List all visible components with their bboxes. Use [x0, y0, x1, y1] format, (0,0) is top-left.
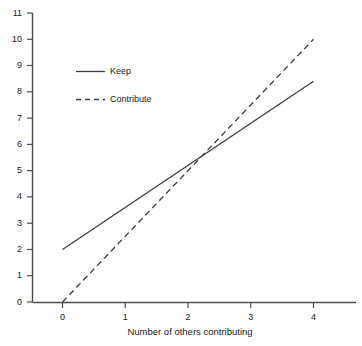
- x-axis-title: Number of others contributing: [105, 326, 275, 337]
- y-tick-label: 0: [0, 298, 22, 307]
- y-tick-label: 1: [0, 271, 22, 280]
- x-tick-label: 1: [115, 313, 135, 322]
- x-tick-label: 4: [304, 313, 324, 322]
- y-tick-label: 8: [0, 87, 22, 96]
- y-tick-label: 6: [0, 140, 22, 149]
- x-tick-label: 3: [241, 313, 261, 322]
- y-tick-label: 10: [0, 35, 22, 44]
- y-axis-ticks: [27, 13, 33, 302]
- chart-canvas: [0, 0, 362, 346]
- x-axis-ticks: [63, 303, 314, 309]
- y-tick-label: 4: [0, 192, 22, 201]
- y-tick-label: 2: [0, 245, 22, 254]
- x-tick-label: 2: [178, 313, 198, 322]
- legend-label-keep: Keep: [110, 67, 131, 76]
- series-line-contribute: [63, 39, 314, 302]
- series-line-keep: [63, 81, 314, 249]
- line-chart: 11 10 9 8 7 6 5 4 3 2 1 0 0 1 2 3 4 Keep…: [0, 0, 362, 346]
- y-tick-label: 9: [0, 61, 22, 70]
- legend-label-contribute: Contribute: [110, 95, 152, 104]
- x-tick-label: 0: [53, 313, 73, 322]
- y-tick-label: 5: [0, 166, 22, 175]
- y-tick-label: 3: [0, 219, 22, 228]
- y-tick-label: 11: [0, 9, 22, 18]
- y-tick-label: 7: [0, 114, 22, 123]
